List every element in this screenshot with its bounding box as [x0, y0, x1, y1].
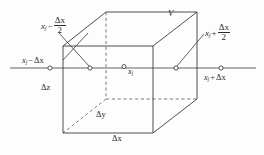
- right-node-term: Δx: [216, 72, 226, 82]
- right-face-denominator: 2: [218, 33, 230, 42]
- edge-right-bottom-diagonal: [153, 99, 197, 133]
- label-left-face-position: xj−Δx2: [41, 16, 66, 35]
- delta-x-text: Δx: [112, 133, 122, 143]
- label-right-face-position: xj+Δx2: [205, 23, 230, 42]
- edge-top-right-diagonal: [153, 12, 197, 46]
- left-face-operator: −: [47, 21, 54, 31]
- label-delta-x: Δx: [112, 134, 122, 143]
- control-volume-figure: xj−Δx2 xj+Δx2 xj−Δx xj+Δx xj V Δz Δy Δx: [0, 0, 264, 155]
- right-face-operator: +: [211, 28, 218, 38]
- leader-right-face: [177, 34, 204, 66]
- edge-top-left-diagonal: [63, 12, 106, 46]
- label-delta-y: Δy: [96, 110, 106, 119]
- marker-node-x-minus-delta: [48, 66, 52, 70]
- marker-cell-center: [122, 65, 126, 69]
- label-right-node-position: xj+Δx: [204, 73, 226, 83]
- leader-left-face: [59, 33, 89, 66]
- marker-node-x-plus-delta: [219, 66, 223, 70]
- label-cell-center: xj: [128, 67, 133, 77]
- left-face-denominator: 2: [54, 26, 66, 35]
- delta-z-text: Δz: [41, 82, 50, 92]
- leader-left-face-secondary: [63, 33, 88, 60]
- delta-y-text: Δy: [96, 109, 106, 119]
- left-node-term: Δx: [34, 55, 44, 65]
- left-face-fraction: Δx2: [54, 16, 66, 35]
- leader-lines: [59, 33, 204, 66]
- marker-face-left-center: [88, 66, 92, 70]
- label-volume: V: [168, 9, 174, 18]
- label-delta-z: Δz: [41, 83, 50, 92]
- marker-face-right-center: [174, 66, 178, 70]
- cell-center-subscript: j: [132, 70, 133, 76]
- right-face-fraction: Δx2: [218, 23, 230, 42]
- label-left-node-position: xj−Δx: [22, 56, 44, 66]
